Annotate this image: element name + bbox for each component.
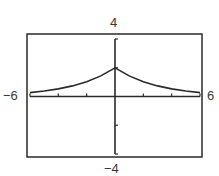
axes xyxy=(30,39,200,154)
graph-plot xyxy=(0,0,219,176)
